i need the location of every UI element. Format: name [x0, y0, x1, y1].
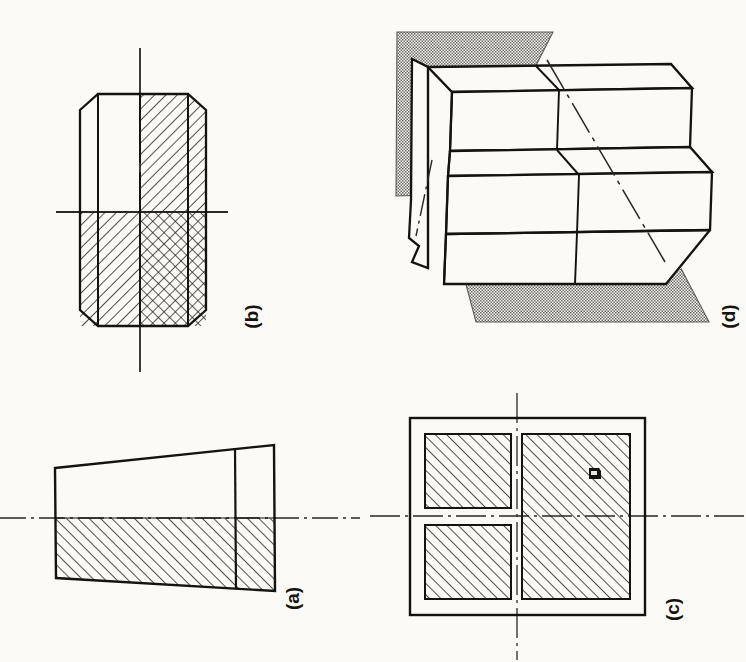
figure-a	[0, 445, 360, 605]
figure-d-upper-front-face	[450, 88, 692, 151]
figure-d-left-end-face	[409, 59, 428, 268]
figure-b	[56, 48, 228, 372]
figure-d-solid-body	[409, 59, 712, 285]
figure-c-hatch-bottom-left	[420, 518, 520, 608]
figure-b-label: (b)	[242, 304, 261, 328]
figure-c-hatch-right	[518, 428, 638, 608]
drawing-canvas	[0, 0, 746, 662]
drawing-page: (a) (b) (c) (d)	[0, 0, 746, 662]
figure-c-ink-smudge	[589, 468, 601, 479]
figure-c-label: (c)	[663, 598, 682, 621]
figure-d	[396, 32, 712, 322]
figure-b-hatch-lower-left	[70, 205, 150, 335]
figure-c	[370, 393, 746, 660]
figure-d-label: (d)	[719, 304, 738, 328]
figure-a-label: (a)	[283, 587, 302, 610]
figure-c-hatch-top-left	[420, 428, 520, 518]
